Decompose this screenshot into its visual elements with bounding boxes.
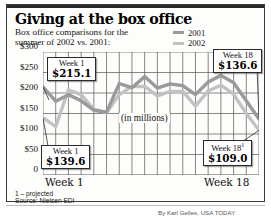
page-title: Giving at the box office — [15, 11, 192, 27]
callout-value: $139.6 — [46, 156, 85, 167]
line-swatch-icon-2001 — [173, 31, 184, 34]
callout-value: $109.0 — [208, 153, 247, 164]
callout-value: $215.1 — [52, 68, 91, 79]
y-axis-tick: $50 — [25, 144, 39, 154]
credit-divider — [6, 205, 265, 206]
y-axis-tick: $100 — [20, 123, 38, 133]
callout-value: $136.6 — [218, 60, 257, 71]
x-axis-first-label: Week 1 — [45, 176, 84, 188]
callout-week18-2002: Week 181 $109.0 — [203, 140, 252, 166]
units-label: (in millions) — [119, 113, 170, 123]
callout-week1-2001: Week 1 $215.1 — [47, 57, 96, 81]
footnote-source: Source: Nielsen EDI — [15, 197, 74, 204]
callout-week18-2001: Week 18 $136.6 — [213, 49, 262, 73]
top-rule — [7, 5, 264, 8]
legend: 2001 2002 — [173, 28, 205, 49]
line-swatch-icon-2002 — [173, 42, 184, 45]
legend-label-2002: 2002 — [188, 38, 205, 48]
y-axis-tick: $300 — [20, 41, 38, 51]
legend-label-2001: 2001 — [188, 28, 205, 38]
x-axis-last-label: Week 18 — [204, 176, 249, 188]
legend-item-2001: 2001 — [173, 28, 205, 38]
footnote-projected: 1 – projected — [15, 190, 53, 197]
y-axis-tick: $150 — [20, 103, 38, 113]
legend-item-2002: 2002 — [173, 39, 205, 49]
y-axis: $300$250$200$150$100$500 — [7, 46, 41, 179]
y-axis-tick: 0 — [34, 164, 39, 174]
credit-line: By Karl Gelles, USA TODAY — [158, 209, 235, 216]
y-axis-tick: $250 — [20, 62, 38, 72]
footnote-marker: 1 — [241, 142, 244, 148]
y-axis-tick: $200 — [20, 82, 38, 92]
callout-week1-2002: Week 1 $139.6 — [41, 145, 90, 169]
chart-card: Giving at the box office Box office comp… — [6, 4, 265, 202]
